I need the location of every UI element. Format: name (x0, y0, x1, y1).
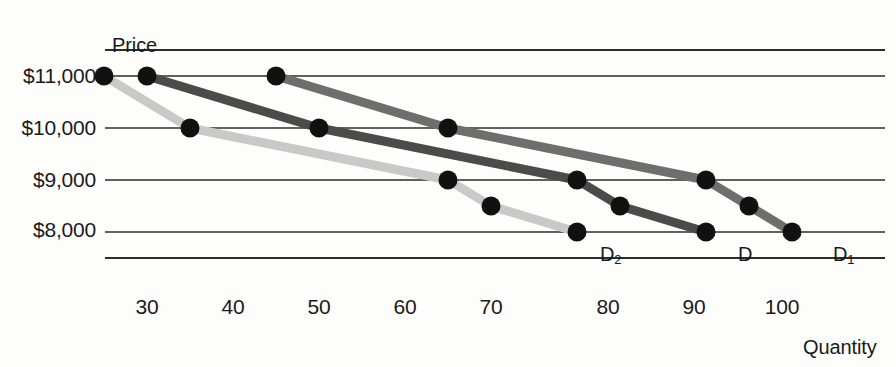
data-point-marker (568, 171, 587, 190)
x-tick-label-50: 50 (279, 296, 359, 317)
data-point-marker (439, 171, 458, 190)
y-tick-label-9000: $9,000 (0, 169, 96, 190)
curve-label-d1-subscript: 1 (847, 252, 854, 267)
data-point-marker (611, 197, 630, 216)
curve-label-d1-text: D (833, 243, 847, 265)
x-tick-label-100: 100 (742, 296, 822, 317)
x-axis-title: Quantity (803, 337, 877, 357)
y-tick-label-11000: $11,000 (0, 65, 96, 86)
curve-label-d2-subscript: 2 (614, 252, 621, 267)
x-tick-label-70: 70 (451, 296, 531, 317)
data-point-marker (267, 67, 286, 86)
x-tick-label-30: 30 (107, 296, 187, 317)
curve-label-d: D (738, 244, 752, 264)
y-tick-label-8000: $8,000 (0, 219, 96, 240)
curve-label-d-text: D (738, 243, 752, 265)
curve-label-d1: D1 (833, 244, 854, 264)
x-tick-label-40: 40 (193, 296, 273, 317)
data-point-marker (95, 67, 114, 86)
x-tick-label-90: 90 (654, 296, 734, 317)
curve-line-d1 (276, 76, 792, 232)
data-point-marker (439, 119, 458, 138)
curve-label-d2: D2 (600, 244, 621, 264)
data-point-marker (697, 171, 716, 190)
data-point-marker (783, 223, 802, 242)
x-tick-label-60: 60 (365, 296, 445, 317)
data-point-marker (482, 197, 501, 216)
data-point-marker (310, 119, 329, 138)
data-point-marker (740, 197, 759, 216)
curve-label-d2-text: D (600, 243, 614, 265)
data-point-marker (181, 119, 200, 138)
gridlines (105, 50, 885, 258)
data-point-marker (138, 67, 157, 86)
demand-curve-chart: $11,000 $10,000 $9,000 $8,000 Price 30 4… (0, 0, 896, 367)
x-tick-label-80: 80 (568, 296, 648, 317)
y-tick-label-10000: $10,000 (0, 117, 96, 138)
data-point-marker (568, 223, 587, 242)
demand-curves (104, 76, 792, 232)
data-point-marker (697, 223, 716, 242)
y-axis-title: Price (112, 35, 157, 55)
